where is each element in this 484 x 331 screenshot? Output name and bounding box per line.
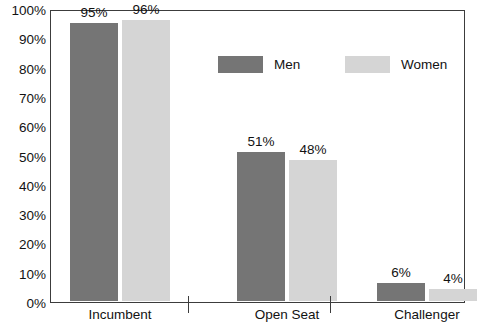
bar [377, 283, 425, 301]
y-axis-tick-label: 50% [0, 149, 46, 164]
bar-value-label: 4% [443, 271, 463, 286]
bar-value-label: 96% [132, 2, 159, 17]
legend-label: Women [401, 57, 447, 72]
bar-value-label: 6% [391, 265, 411, 280]
legend-item: Women [345, 56, 447, 73]
legend-swatch [218, 56, 263, 73]
legend-item: Men [218, 56, 300, 73]
bar [429, 289, 477, 301]
bar-value-label: 95% [80, 5, 107, 20]
y-axis-tick-label: 40% [0, 178, 46, 193]
legend-label: Men [274, 57, 300, 72]
category-label: Incumbent [88, 307, 151, 322]
y-axis-tick-label: 10% [0, 266, 46, 281]
y-axis-tick-label: 20% [0, 237, 46, 252]
y-axis-tick-label: 70% [0, 90, 46, 105]
bar [289, 160, 337, 301]
bars-layer [50, 10, 463, 301]
y-axis-tick-label: 60% [0, 120, 46, 135]
y-axis-tick-label: 0% [0, 296, 46, 311]
bar-value-label: 51% [247, 134, 274, 149]
bar [237, 152, 285, 301]
bar [70, 23, 118, 301]
bar-value-label: 48% [299, 142, 326, 157]
bar-chart: 0%10%20%30%40%50%60%70%80%90%100% 95%96%… [0, 0, 484, 331]
group-separator-tick [188, 296, 189, 313]
y-axis-tick-label: 90% [0, 32, 46, 47]
category-label: Challenger [394, 307, 459, 322]
y-axis-tick-label: 100% [0, 3, 46, 18]
y-axis-tick-label: 30% [0, 208, 46, 223]
bar [122, 20, 170, 301]
category-label: Open Seat [255, 307, 320, 322]
group-separator-tick [330, 296, 331, 313]
y-axis-tick-label: 80% [0, 61, 46, 76]
legend-swatch [345, 56, 390, 73]
